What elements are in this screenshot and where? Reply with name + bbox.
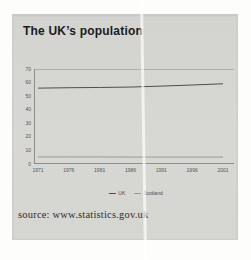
x-tick-label: 1996 [182, 168, 202, 173]
x-tick-label: 1981 [90, 168, 110, 173]
legend-item-uk: UK [109, 190, 125, 196]
x-tick-label: 1991 [151, 168, 171, 173]
y-tick-label: 10 [15, 148, 31, 153]
y-tick-label: 50 [15, 94, 31, 99]
x-tick-label: 1976 [59, 168, 79, 173]
y-tick-label: 70 [15, 67, 31, 72]
uk-series-label: UK [118, 190, 125, 196]
uk-series-line-swatch [109, 193, 116, 194]
x-tick-label: 2001 [213, 168, 233, 173]
x-tick-label: 1971 [28, 168, 48, 173]
scotland-series-line-swatch [134, 193, 141, 194]
chart-plot-area: 706050403020100 197119761981198619911996… [34, 69, 234, 164]
y-tick-label: 60 [15, 80, 31, 85]
chart-card: The UK’s population 706050403020100 1971… [12, 14, 238, 240]
y-tick-label: 0 [15, 162, 31, 167]
chart-plot-svg [34, 69, 234, 164]
chart-legend: UK Scotland [13, 190, 239, 196]
y-tick-label: 30 [15, 121, 31, 126]
chart-title: The UK’s population [23, 24, 143, 38]
uk-series-line [38, 84, 223, 88]
x-tick-label: 1986 [121, 168, 141, 173]
y-tick-label: 20 [15, 134, 31, 139]
scotland-series-label: Scotland [143, 190, 162, 196]
legend-item-scotland: Scotland [134, 190, 162, 196]
y-tick-label: 40 [15, 107, 31, 112]
source-citation: source: www.statistics.gov.uk [18, 209, 148, 220]
